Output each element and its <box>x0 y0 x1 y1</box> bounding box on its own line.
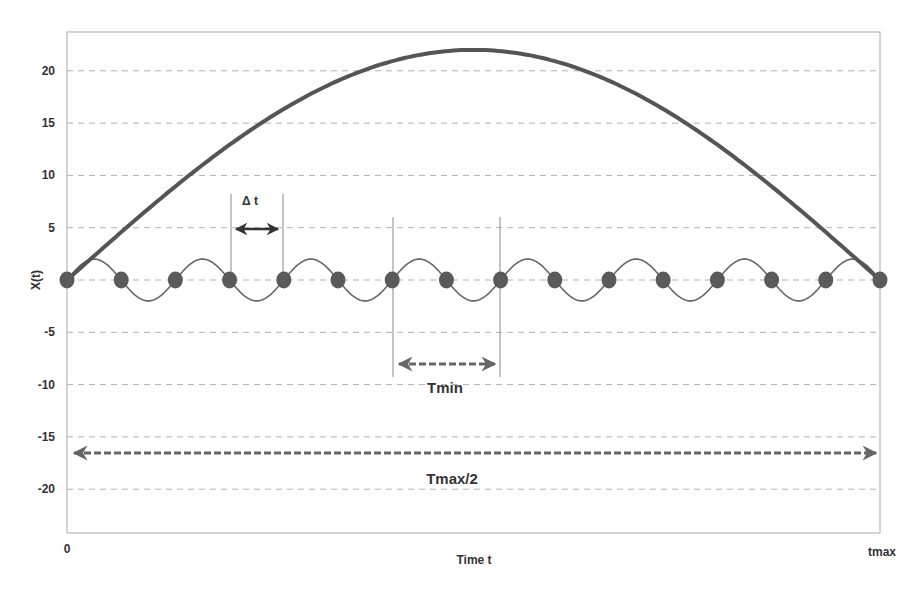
sample-point <box>818 272 833 289</box>
sample-point <box>222 272 237 289</box>
slow-curve-line <box>67 50 880 280</box>
svg-text:Tmin: Tmin <box>427 379 463 396</box>
sample-point <box>710 272 725 289</box>
y-tick-label: -20 <box>38 482 56 496</box>
y-tick-label: 15 <box>42 116 56 130</box>
x-axis-label: Time t <box>456 553 491 567</box>
svg-text:Tmax/2: Tmax/2 <box>426 470 478 487</box>
y-tick-label: 10 <box>42 168 56 182</box>
delta-t-annotation: Δ t <box>231 194 283 280</box>
sample-point <box>330 272 345 289</box>
y-tick-label: -10 <box>38 378 56 392</box>
y-tick-label: 5 <box>48 221 55 235</box>
sample-point <box>168 272 183 289</box>
x-tick-0: 0 <box>64 542 71 556</box>
sample-point <box>764 272 779 289</box>
sample-point <box>547 272 562 289</box>
sample-point <box>276 272 291 289</box>
sample-point <box>385 272 400 289</box>
sample-point <box>873 272 888 289</box>
y-tick-label: -15 <box>38 430 56 444</box>
chart: 2015105-5-10-15-20 0 tmax Time t X(t) Δ … <box>0 0 922 590</box>
sample-point <box>656 272 671 289</box>
sample-point <box>602 272 617 289</box>
y-axis-label: X(t) <box>29 270 43 290</box>
y-tick-label: 20 <box>42 64 56 78</box>
x-tick-tmax: tmax <box>868 545 896 559</box>
sample-point <box>114 272 129 289</box>
tmin-annotation: Tmin <box>393 217 500 396</box>
y-tick-label: -5 <box>44 325 55 339</box>
tmax-half-annotation: Tmax/2 <box>74 453 876 487</box>
sample-point <box>439 272 454 289</box>
svg-text:Δ t: Δ t <box>242 194 258 208</box>
sample-point <box>60 272 75 289</box>
plot-area <box>67 32 880 533</box>
grid-lines <box>67 71 880 489</box>
sample-point <box>493 272 508 289</box>
